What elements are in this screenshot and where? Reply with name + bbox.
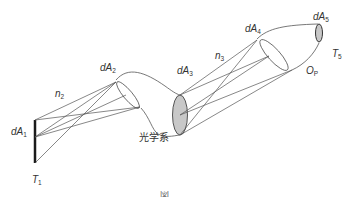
label-op: OP — [306, 66, 318, 78]
optical-system-outline — [116, 72, 180, 136]
label-da3: dA3 — [177, 66, 193, 78]
rays-n2 — [35, 82, 140, 163]
exit-pupil-outline — [257, 24, 319, 70]
label-da4: dA4 — [245, 24, 261, 36]
label-da2: dA2 — [100, 63, 116, 75]
area-element-da4 — [256, 36, 292, 74]
optical-system-diagram — [0, 0, 349, 197]
label-t1: T1 — [32, 175, 42, 187]
label-n3: n3 — [215, 51, 224, 63]
area-element-da2 — [114, 79, 143, 111]
figure-caption-fragment: 図 — [160, 191, 190, 197]
rays-n3 — [180, 40, 292, 135]
label-t5: T5 — [332, 49, 342, 61]
label-da5: dA5 — [313, 12, 329, 24]
label-optical-system: 光学系 — [139, 133, 169, 143]
label-n2: n2 — [55, 89, 64, 101]
area-element-da5 — [316, 24, 323, 42]
label-da1: dA1 — [11, 127, 27, 139]
